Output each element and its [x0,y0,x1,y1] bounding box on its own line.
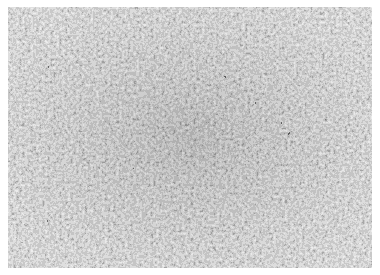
vignette-layer [8,7,372,268]
micrograph-image [8,7,372,268]
grain-texture [8,7,372,268]
